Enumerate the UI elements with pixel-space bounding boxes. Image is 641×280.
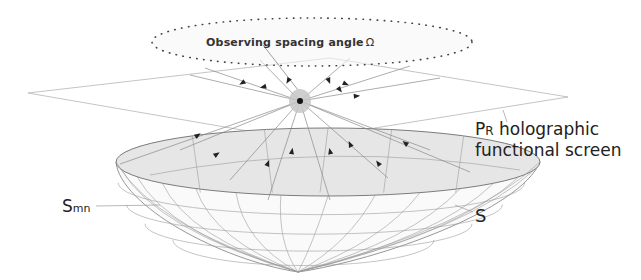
holographic-screen-label: PR holographic functional screen xyxy=(475,120,622,160)
source-dot xyxy=(297,98,303,104)
arrow-head xyxy=(286,77,291,84)
surface-s-label: S xyxy=(475,205,486,226)
arrow-head xyxy=(260,84,267,89)
ray-line xyxy=(300,78,440,101)
arrow-head xyxy=(342,80,349,85)
smn-sub: mn xyxy=(73,202,91,215)
screen-label-line1: PR holographic xyxy=(475,120,622,141)
source-point xyxy=(289,89,311,113)
arrow-head xyxy=(354,94,361,99)
screen-line1-text: holographic xyxy=(494,119,600,139)
observing-angle-text: Observing spacing angle xyxy=(206,36,364,49)
arrow-head xyxy=(336,86,342,93)
screen-label-line2: functional screen xyxy=(475,141,622,160)
smn-main: S xyxy=(62,196,73,216)
observing-angle-label: Observing spacing angleΩ xyxy=(206,36,374,49)
omega-symbol: Ω xyxy=(366,36,375,49)
ray-line xyxy=(205,68,300,101)
ray-line xyxy=(190,75,300,101)
smn-label: Smn xyxy=(62,196,90,216)
screen-prefix: P xyxy=(475,119,485,139)
screen-prefix-sub: R xyxy=(485,124,493,138)
